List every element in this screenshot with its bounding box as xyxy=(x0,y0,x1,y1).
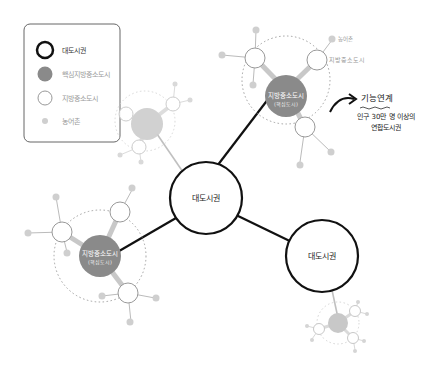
annotation-rural: 농어촌 xyxy=(338,35,353,43)
local-city-legend-icon xyxy=(38,91,52,105)
metro-center: 대도시권 xyxy=(170,162,242,234)
local-city-node xyxy=(350,306,361,317)
local-city-node xyxy=(314,324,325,335)
local-city-node xyxy=(132,140,146,154)
metro-legend-icon xyxy=(37,42,53,58)
rural-node xyxy=(253,27,260,34)
callout-arrow xyxy=(330,98,354,112)
wavy-underline-icon xyxy=(360,107,390,109)
cluster-bottom-right xyxy=(305,300,369,353)
metro-right: 대도시권 xyxy=(286,220,358,292)
rural-legend-icon xyxy=(42,118,48,124)
local-city-node xyxy=(119,107,133,121)
urban-network-diagram: 대도시권 핵심지방중소도시 지방중소도시 농어촌 xyxy=(0,0,436,370)
callout-line2: 연합도시권 xyxy=(371,123,401,132)
light-link-topleft xyxy=(157,134,183,172)
core-city-label: 지방중소도시 xyxy=(268,91,304,100)
local-city-node xyxy=(52,222,72,242)
legend-label-core: 핵심지방중소도시 xyxy=(62,70,110,79)
local-city-node xyxy=(118,283,138,303)
core-city-legend-icon xyxy=(38,67,53,82)
legend-label-local: 지방중소도시 xyxy=(62,94,98,103)
metro-label: 대도시권 xyxy=(192,193,220,203)
core-city-label: 지방중소도시 xyxy=(82,249,118,258)
cluster-top-left xyxy=(115,82,193,165)
rural-node xyxy=(329,36,336,43)
callout-line1: 인구 30만 명 이상의 xyxy=(357,112,415,121)
legend-label-metro: 대도시권 xyxy=(62,47,86,55)
core-city-node-light xyxy=(131,108,163,140)
local-city-node xyxy=(348,333,359,344)
legend-label-rural: 농어촌 xyxy=(62,117,81,126)
core-city-sublabel: (핵심도시) xyxy=(274,101,298,108)
core-city-sublabel: (핵심도시) xyxy=(88,259,112,266)
metro-label: 대도시권 xyxy=(308,251,336,261)
cluster-top-right: 지방중소도시 (핵심도시) 농어촌 지방중소도시 xyxy=(219,27,366,169)
rural-node xyxy=(219,52,226,59)
rural-node xyxy=(328,149,335,156)
callout-title: 기능연계 xyxy=(361,93,393,103)
local-city-node xyxy=(295,117,315,137)
rural-node xyxy=(250,82,257,89)
callout: 기능연계 인구 30만 명 이상의 연합도시권 xyxy=(330,93,415,132)
rural-node xyxy=(297,162,304,169)
cluster-left: 지방중소도시 (핵심도시) xyxy=(25,185,160,326)
annotation-local-city: 지방중소도시 xyxy=(329,56,365,64)
local-city-node xyxy=(245,48,265,68)
legend: 대도시권 핵심지방중소도시 지방중소도시 농어촌 xyxy=(24,24,120,142)
local-city-node xyxy=(307,50,327,70)
local-city-node xyxy=(110,202,130,222)
core-city-node-light xyxy=(328,313,348,333)
local-city-node xyxy=(166,97,180,111)
